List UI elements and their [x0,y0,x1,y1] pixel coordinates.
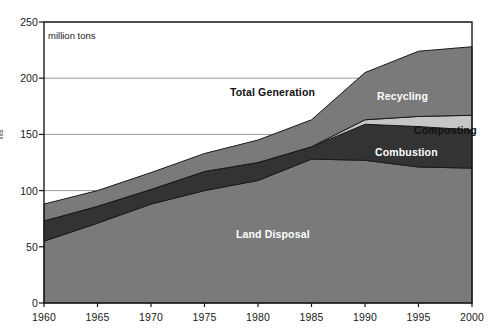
series-label: Combustion [375,146,438,158]
unit-annotation: million tons [48,30,96,41]
series-label: Recycling [377,90,428,102]
series-label: Land Disposal [236,228,310,240]
series-label: Total Generation [230,86,315,98]
series-label: Composting [414,124,477,136]
plot-area [0,0,500,336]
area-chart: ns 050100150200250 196019651970197519801… [0,0,500,336]
